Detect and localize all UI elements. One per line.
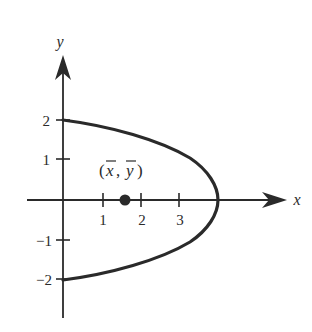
centroid-label-x: x bbox=[105, 161, 114, 180]
x-tick-label-1: 1 bbox=[99, 212, 107, 228]
y-axis: y bbox=[54, 33, 71, 318]
x-axis-label: x bbox=[292, 191, 300, 208]
y-axis-label: y bbox=[54, 33, 64, 51]
x-tick-label-2: 2 bbox=[138, 212, 146, 228]
x-axis: x bbox=[27, 191, 301, 208]
centroid-point bbox=[120, 195, 131, 206]
x-tick-label-3: 3 bbox=[176, 212, 184, 228]
svg-text:,: , bbox=[116, 161, 120, 180]
svg-text:): ) bbox=[137, 161, 143, 180]
y-tick-label-1: 1 bbox=[43, 152, 51, 168]
y-tick-label-neg2: −2 bbox=[36, 272, 52, 288]
centroid-label: ( x , y ) bbox=[99, 161, 143, 180]
svg-text:(: ( bbox=[99, 161, 105, 180]
centroid-label-y: y bbox=[124, 161, 134, 180]
parabola-centroid-diagram: y x 1 2 3 2 1 −1 −2 bbox=[0, 0, 312, 332]
y-tick-label-2: 2 bbox=[43, 113, 51, 129]
y-tick-label-neg1: −1 bbox=[36, 233, 52, 249]
